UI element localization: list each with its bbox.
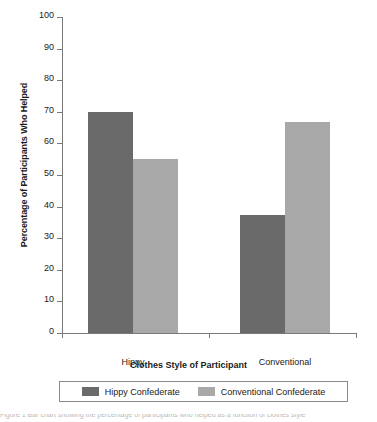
y-tick-label: 90 <box>44 42 54 52</box>
plot-area: 1009080706050403020100 HippyConventional <box>62 17 357 334</box>
bar <box>133 159 178 333</box>
y-tick: 40 <box>57 207 62 208</box>
x-axis-title: Clothes Style of Participant <box>0 360 377 370</box>
y-axis-title: Percentage of Participants Who Helped <box>19 55 29 275</box>
legend-item-hippy-confederate: Hippy Confederate <box>82 387 180 397</box>
bar <box>88 112 133 333</box>
legend-swatch-icon <box>82 387 99 396</box>
figure-caption-cropped: Figure 1 Bar chart showing the percentag… <box>0 414 377 422</box>
y-tick: 100 <box>57 17 62 18</box>
y-tick-label: 80 <box>44 73 54 83</box>
legend-label: Conventional Confederate <box>221 387 326 397</box>
y-tick-label: 10 <box>44 294 54 304</box>
x-tick <box>209 333 210 338</box>
y-tick: 50 <box>57 175 62 176</box>
y-tick: 30 <box>57 238 62 239</box>
y-tick: 60 <box>57 143 62 144</box>
figure-caption-text: Figure 1 Bar chart showing the percentag… <box>0 414 377 418</box>
bar-chart-figure: Percentage of Participants Who Helped 10… <box>0 0 377 422</box>
y-tick: 70 <box>57 112 62 113</box>
y-tick-label: 100 <box>39 10 54 20</box>
y-tick: 20 <box>57 270 62 271</box>
bar <box>240 215 285 334</box>
legend-swatch-icon <box>198 387 215 396</box>
legend-label: Hippy Confederate <box>105 387 180 397</box>
bar <box>285 122 330 333</box>
y-tick: 80 <box>57 80 62 81</box>
y-tick-label: 50 <box>44 168 54 178</box>
chart-legend: Hippy Confederate Conventional Confedera… <box>59 381 348 402</box>
x-tick <box>356 333 357 338</box>
legend-item-conventional-confederate: Conventional Confederate <box>198 387 326 397</box>
y-tick-label: 0 <box>49 326 54 336</box>
y-tick-label: 40 <box>44 200 54 210</box>
y-tick-label: 20 <box>44 263 54 273</box>
y-tick: 90 <box>57 49 62 50</box>
y-tick-label: 30 <box>44 231 54 241</box>
y-tick-label: 70 <box>44 105 54 115</box>
x-tick <box>62 333 63 338</box>
y-tick: 10 <box>57 301 62 302</box>
y-tick-label: 60 <box>44 136 54 146</box>
y-axis-line <box>62 17 63 334</box>
